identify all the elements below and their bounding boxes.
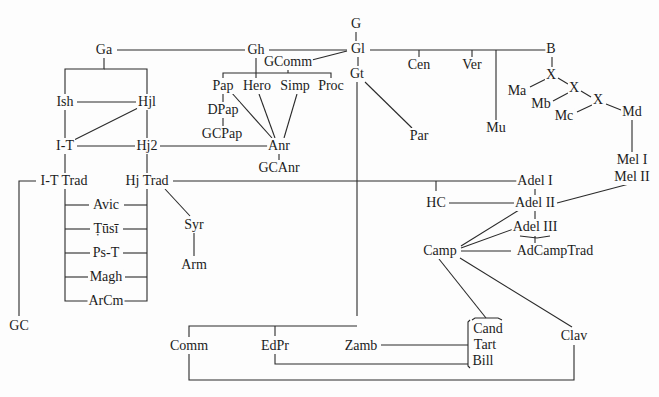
node-pst: Ps-T [92,245,120,261]
node-tusi: Ṭūsī [93,221,120,237]
node-md: Md [621,104,642,120]
node-adelii: Adel II [514,195,556,211]
node-anr: Anr [267,138,291,154]
node-avic: Avic [92,197,120,213]
edge [259,94,275,138]
node-ittrad: I-T Trad [40,173,89,189]
node-adeliii: Adel III [512,219,559,235]
node-mu: Mu [485,120,506,136]
edge [19,181,36,316]
node-gl: Gl [350,41,366,57]
node-melii: Mel II [613,169,650,185]
edge [530,79,546,87]
edge [439,259,486,318]
node-it: I-T [55,138,75,154]
node-ma: Ma [507,83,528,99]
edge [365,82,412,128]
edge [65,189,91,301]
edge [461,210,519,246]
node-b: B [545,41,556,57]
node-g: G [350,16,362,32]
edge [557,184,629,203]
edge [189,326,357,337]
node-adcamptrad: AdCampTrad [516,243,595,259]
edge [122,189,147,301]
node-adeli: Adel I [516,173,553,189]
edge [461,227,519,248]
node-ish: Ish [55,94,74,110]
node-arm: Arm [180,257,208,273]
node-magh: Magh [89,269,124,285]
node-comm: Comm [169,338,209,354]
node-x2: X [568,80,580,96]
edge [275,354,468,364]
node-proc: Proc [317,78,345,94]
node-gcomm: GComm [263,54,313,70]
edge [165,189,190,216]
edge [472,318,502,320]
node-tart: Tart [473,337,497,353]
node-hj2: Hj2 [136,138,159,154]
edge [74,108,138,140]
edge [460,258,572,327]
node-mc: Mc [554,108,575,124]
node-cand: Cand [472,321,504,337]
node-meli: Mel I [616,152,649,168]
edge [223,73,331,78]
edge [104,69,147,94]
node-cen: Cen [407,57,432,73]
node-mb: Mb [530,96,551,112]
edge [468,320,470,368]
node-gcpap: GCPap [201,126,243,142]
node-zamb: Zamb [344,338,379,354]
node-hjtrad: Hj Trad [124,173,169,189]
node-ga: Ga [95,42,113,58]
node-edpr: EdPr [260,338,290,354]
edge [189,345,574,380]
edge [606,104,621,110]
node-syr: Syr [183,217,204,233]
node-x1: X [545,67,557,83]
edge [553,93,568,101]
edge [370,41,551,50]
node-dpap: DPap [206,102,239,118]
node-camp: Camp [422,243,457,259]
node-clav: Clav [560,328,588,344]
node-bill: Bill [471,353,494,369]
node-simp: Simp [279,78,311,94]
node-par: Par [409,128,430,144]
node-hero: Hero [242,78,272,94]
edge [308,51,347,61]
node-gt: Gt [349,66,365,82]
node-ver: Ver [461,57,482,73]
node-pap: Pap [212,78,235,94]
edge [581,91,591,97]
edge [558,78,568,84]
edge [284,94,297,138]
edge [65,58,104,94]
edge [577,105,592,112]
node-hjl: Hjl [137,94,157,110]
node-gcanr: GCAnr [257,160,300,176]
node-gc: GC [8,318,29,334]
node-hc: HC [425,195,446,211]
stemma-diagram: GGlGtGaGhGCommCenVerBXXXMaMbMcMdMuParMel… [0,0,659,397]
node-arcm: ArCm [88,293,125,309]
node-x3: X [592,92,604,108]
